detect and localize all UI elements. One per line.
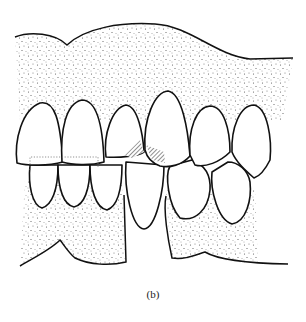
lower-tooth-4 (126, 162, 164, 229)
figure-caption: (b) (0, 288, 306, 300)
dental-illustration (0, 0, 306, 322)
